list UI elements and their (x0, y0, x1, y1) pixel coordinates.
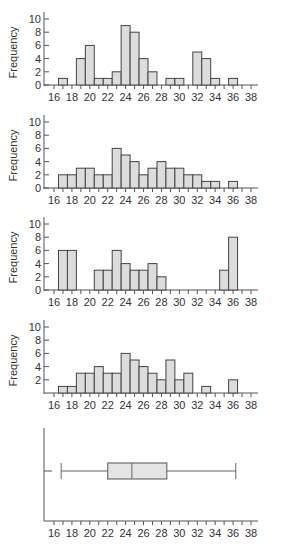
x-tick-label: 36 (227, 91, 239, 103)
bar (130, 162, 139, 188)
x-tick-label: 20 (84, 399, 96, 411)
y-tick-label: 8 (35, 26, 41, 38)
x-tick-label: 18 (66, 399, 78, 411)
x-tick-label: 32 (191, 194, 203, 206)
x-tick-label: 16 (48, 527, 60, 539)
bar (76, 59, 85, 85)
x-tick-label: 20 (84, 527, 96, 539)
y-axis-title: Frequency (7, 26, 19, 78)
x-tick-label: 24 (120, 399, 132, 411)
y-tick-label: 10 (29, 13, 41, 25)
y-tick-label: 8 (35, 334, 41, 346)
x-tick-label: 28 (155, 527, 167, 539)
bar (103, 175, 112, 188)
x-tick-label: 26 (137, 194, 149, 206)
bar (58, 175, 67, 188)
x-tick-label: 28 (155, 296, 167, 308)
panel-2: 0246810Frequency161820222426283032343638 (7, 115, 258, 206)
x-tick-label: 38 (245, 194, 257, 206)
bar (94, 270, 103, 290)
bar (166, 78, 175, 85)
bar (166, 168, 175, 188)
x-tick-label: 32 (191, 399, 203, 411)
bar (211, 181, 220, 188)
x-tick-label: 18 (66, 91, 78, 103)
x-tick-label: 30 (173, 194, 185, 206)
bar (121, 264, 130, 290)
bar (130, 360, 139, 393)
bar (175, 168, 184, 188)
x-tick-label: 34 (209, 399, 221, 411)
bar (94, 175, 103, 188)
x-tick-label: 22 (102, 527, 114, 539)
x-tick-label: 24 (120, 296, 132, 308)
bar (202, 386, 211, 393)
x-tick-label: 24 (120, 91, 132, 103)
bar (85, 373, 94, 393)
x-tick-label: 34 (209, 296, 221, 308)
y-tick-label: 4 (35, 53, 41, 65)
bar (94, 367, 103, 393)
bar (76, 373, 85, 393)
x-tick-label: 28 (155, 399, 167, 411)
y-tick-label: 2 (35, 271, 41, 283)
y-tick-label: 2 (35, 374, 41, 386)
bar (67, 175, 76, 188)
bar (121, 155, 130, 188)
bar (229, 237, 238, 290)
x-tick-label: 34 (209, 91, 221, 103)
x-tick-label: 22 (102, 194, 114, 206)
bar (67, 250, 76, 290)
x-tick-label: 38 (245, 91, 257, 103)
y-tick-label: 2 (35, 169, 41, 181)
bar (211, 78, 220, 85)
bar (148, 168, 157, 188)
x-tick-label: 18 (66, 527, 78, 539)
bar (67, 386, 76, 393)
x-tick-label: 22 (102, 399, 114, 411)
y-tick-label: 8 (35, 129, 41, 141)
x-tick-label: 36 (227, 194, 239, 206)
x-tick-label: 20 (84, 296, 96, 308)
bar (166, 360, 175, 393)
bar (202, 181, 211, 188)
panel-3: 0246810Frequency161820222426283032343638 (7, 217, 258, 308)
x-tick-label: 22 (102, 296, 114, 308)
bar (220, 270, 229, 290)
y-tick-label: 6 (35, 39, 41, 51)
x-tick-label: 36 (227, 527, 239, 539)
bar (85, 168, 94, 188)
bar (103, 270, 112, 290)
bar (103, 78, 112, 85)
x-tick-label: 32 (191, 296, 203, 308)
bar (193, 52, 202, 85)
x-tick-label: 24 (120, 527, 132, 539)
y-tick-label: 8 (35, 231, 41, 243)
bar (175, 78, 184, 85)
bar (229, 78, 238, 85)
y-tick-label: 6 (35, 142, 41, 154)
bar (229, 181, 238, 188)
x-tick-label: 30 (173, 91, 185, 103)
y-axis-title: Frequency (7, 129, 19, 181)
x-tick-label: 38 (245, 527, 257, 539)
bar (85, 45, 94, 85)
bar (58, 386, 67, 393)
x-tick-label: 28 (155, 91, 167, 103)
bar (112, 250, 121, 290)
x-tick-label: 26 (137, 296, 149, 308)
x-tick-label: 20 (84, 194, 96, 206)
x-tick-label: 30 (173, 399, 185, 411)
bar (184, 373, 193, 393)
bar (148, 72, 157, 85)
iqr-box (108, 463, 167, 479)
y-tick-label: 10 (29, 218, 41, 230)
bar (130, 270, 139, 290)
bar (148, 264, 157, 290)
bar (121, 26, 130, 85)
x-tick-label: 28 (155, 194, 167, 206)
bar (139, 367, 148, 393)
y-tick-label: 2 (35, 66, 41, 78)
x-tick-label: 30 (173, 296, 185, 308)
x-tick-label: 38 (245, 296, 257, 308)
